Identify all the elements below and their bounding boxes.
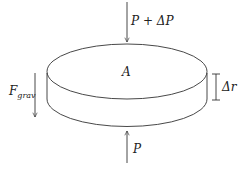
disc-bottom-edge (47, 73, 207, 127)
disc-diagram: P + ΔP A Δr P Fgrav (0, 0, 247, 170)
area-label: A (121, 65, 131, 79)
thickness-label: Δr (221, 80, 238, 94)
bottom-force-label: P (132, 142, 142, 156)
gravity-label-sub: grav (17, 91, 36, 100)
top-force-label: P + ΔP (130, 14, 174, 28)
gravity-force-label: Fgrav (8, 84, 36, 100)
thickness-bracket (212, 74, 220, 100)
